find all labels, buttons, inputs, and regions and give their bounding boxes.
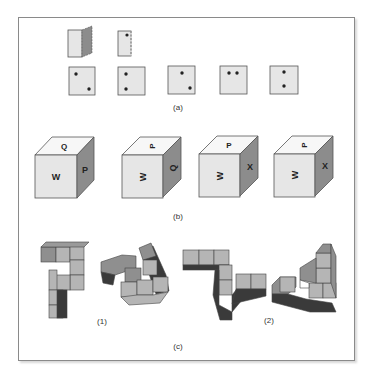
- paper-fold-step-2: [118, 31, 131, 56]
- svg-text:Q: Q: [61, 142, 67, 151]
- svg-text:X: X: [322, 161, 328, 171]
- panel-label-a: (a): [163, 103, 193, 112]
- svg-text:X: X: [247, 162, 253, 172]
- svg-text:P: P: [226, 141, 232, 150]
- pair-label-2: (2): [254, 316, 284, 325]
- option-a-1: [69, 67, 95, 95]
- svg-text:P: P: [82, 165, 88, 175]
- cube-3: P W X: [199, 136, 258, 197]
- panel-label-b: (b): [163, 212, 193, 221]
- cube-1: Q W P: [35, 137, 94, 198]
- svg-text:W: W: [52, 172, 61, 182]
- svg-text:W: W: [290, 170, 300, 179]
- block-structure-2a: [183, 250, 266, 320]
- svg-text:P: P: [300, 142, 309, 148]
- block-structure-2b: [272, 244, 336, 312]
- svg-text:Q: Q: [168, 164, 178, 171]
- block-structure-1b: [101, 243, 169, 305]
- svg-text:W: W: [215, 171, 225, 180]
- paper-fold-step-1: [68, 26, 92, 57]
- block-structure-1a: [41, 242, 89, 318]
- panel-label-c: (c): [163, 342, 193, 351]
- option-a-5: [270, 66, 298, 94]
- pair-label-1: (1): [87, 317, 117, 326]
- answer-options-a: [69, 66, 298, 95]
- option-a-3: [168, 66, 195, 94]
- option-a-2: [118, 67, 145, 95]
- option-a-4: [220, 66, 247, 94]
- cube-2: P W Q: [122, 137, 181, 198]
- svg-text:P: P: [148, 143, 157, 149]
- figure-canvas: Q W P P W Q P W X P W X: [0, 0, 366, 375]
- svg-text:W: W: [138, 172, 148, 181]
- cube-4: P W X: [274, 136, 333, 197]
